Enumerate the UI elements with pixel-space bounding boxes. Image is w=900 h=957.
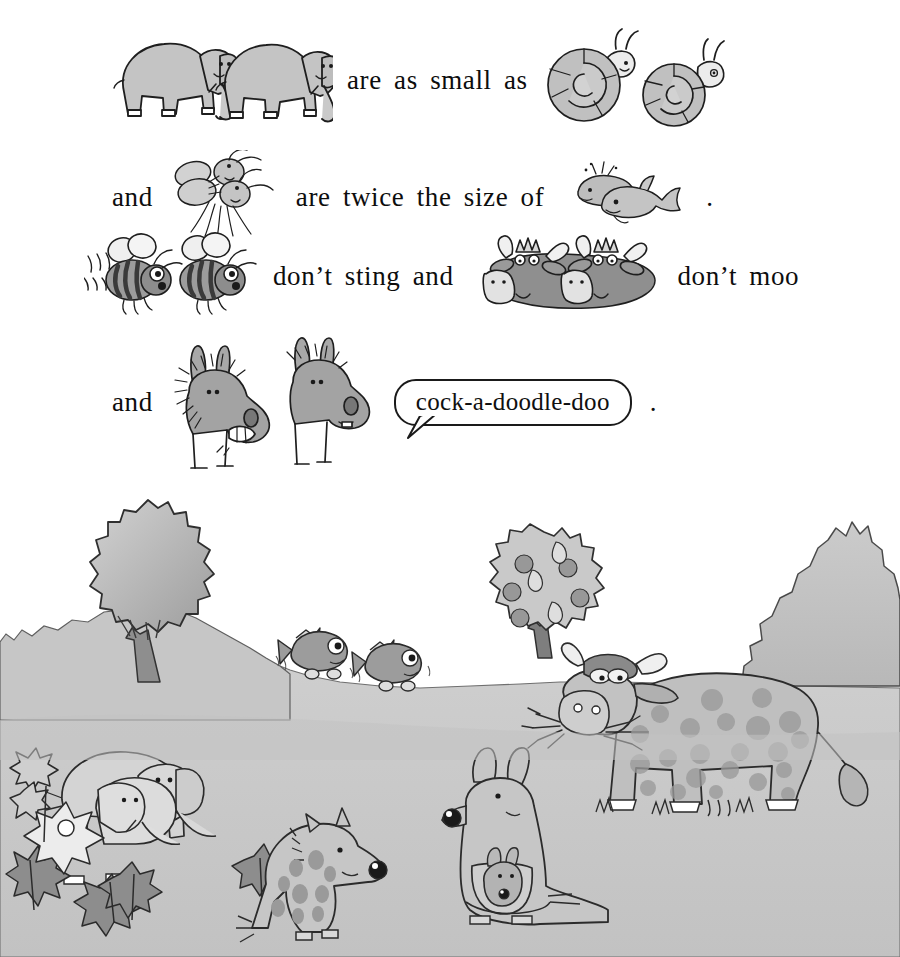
whales-pair-illustration bbox=[558, 158, 688, 236]
speech-bubble: cock-a-doodle-doo bbox=[394, 388, 632, 416]
text-and-1: and bbox=[112, 184, 153, 211]
text-period-2: . bbox=[650, 387, 657, 418]
text-dont-moo: don’t moo bbox=[678, 263, 800, 290]
text-and-2: and bbox=[112, 389, 153, 416]
text-are-twice-the-size-of: are twice the size of bbox=[296, 184, 544, 211]
story-text-area: are as small as bbox=[0, 0, 900, 470]
bush bbox=[742, 522, 900, 686]
text-are-as-small-as: are as small as bbox=[347, 67, 528, 94]
story-line-4: and bbox=[112, 330, 656, 474]
speech-bubble-tail bbox=[406, 412, 440, 440]
snails-pair-illustration bbox=[542, 23, 742, 137]
text-period-1: . bbox=[706, 182, 713, 213]
book-page: Mixed-Up Animals bbox=[0, 0, 900, 957]
text-dont-sting-and: don’t sting and bbox=[273, 263, 454, 290]
cows-pair-illustration bbox=[468, 230, 664, 322]
story-line-1: are as small as bbox=[108, 22, 742, 138]
countryside-scene bbox=[0, 470, 900, 957]
donkeys-pair-illustration bbox=[167, 330, 372, 474]
story-line-3: don’t sting and bbox=[84, 228, 799, 324]
fruit-tree bbox=[490, 524, 604, 658]
flying-fish bbox=[350, 640, 430, 691]
bees-pair-illustration bbox=[84, 228, 259, 324]
elephants-pair-illustration bbox=[108, 22, 333, 138]
